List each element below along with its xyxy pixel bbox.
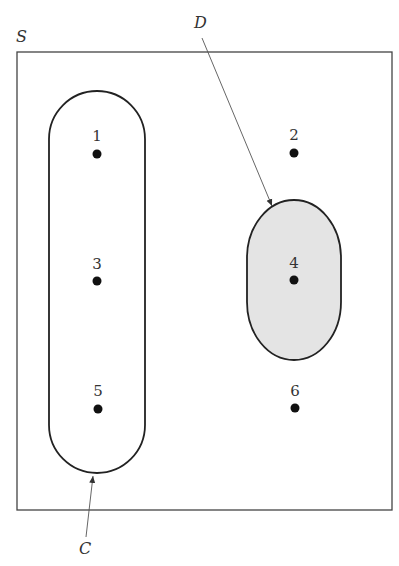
sample-point-2: 2 [289,126,299,158]
sample-space-label: S [16,27,27,46]
sample-point-3: 3 [92,255,102,286]
point-dot [290,276,299,285]
point-dot [94,405,103,414]
event-d-label: D [193,13,207,32]
point-label: 2 [289,126,299,144]
sample-point-5: 5 [93,382,103,414]
sample-point-6: 6 [290,382,300,413]
point-dot [93,277,102,286]
event-d-pointer-arrow [202,38,272,206]
point-dot [291,404,300,413]
point-dot [290,149,299,158]
sample-point-4: 4 [289,254,299,285]
event-c-label: C [79,539,91,558]
event-c-pointer-arrow [86,476,93,537]
point-label: 1 [92,127,102,145]
sample-point-1: 1 [92,127,102,159]
point-label: 4 [289,254,299,272]
point-dot [93,150,102,159]
point-label: 6 [290,382,300,400]
point-label: 3 [92,255,102,273]
point-label: 5 [93,382,103,400]
venn-diagram: S D C 1 2 3 4 5 6 [0,0,399,566]
